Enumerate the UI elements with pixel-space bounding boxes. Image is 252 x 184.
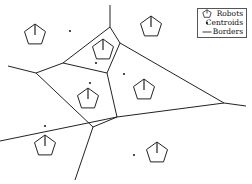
border-line — [93, 117, 117, 127]
centroid-dot — [69, 30, 71, 32]
border-line — [110, 27, 120, 43]
robot-pentagon-icon — [35, 135, 56, 155]
robot-pentagon-icon — [78, 88, 99, 108]
border-line — [0, 117, 117, 141]
border-line — [8, 66, 36, 73]
border-line — [107, 73, 117, 117]
border-line — [224, 103, 246, 106]
robot-pentagon-icon — [134, 79, 155, 99]
legend-item-centroids: Centroids — [198, 18, 246, 27]
legend-item-borders: Borders — [198, 27, 246, 36]
centroid-dot — [95, 62, 97, 64]
border-line — [63, 63, 107, 73]
border-line — [36, 63, 63, 73]
legend: Robots Centroids Borders — [197, 8, 247, 38]
voronoi-diagram: Robots Centroids Borders — [0, 0, 252, 184]
robot-pentagon-icon — [147, 142, 168, 162]
legend-item-robots: Robots — [198, 9, 246, 18]
centroid-dot — [133, 154, 135, 156]
centroid-dot — [123, 73, 125, 75]
centroid-dot — [89, 82, 91, 84]
legend-label: Borders — [213, 27, 243, 36]
legend-label: Robots — [217, 9, 243, 18]
robot-pentagon-icon — [25, 24, 46, 44]
robot-pentagon-icon — [93, 39, 114, 59]
centroid-dot — [44, 125, 46, 127]
legend-label: Centroids — [206, 18, 243, 27]
robot-pentagon-icon — [141, 16, 162, 36]
pentagon-robot-icon — [200, 9, 214, 18]
border-line — [75, 127, 93, 180]
border-line — [117, 103, 224, 117]
